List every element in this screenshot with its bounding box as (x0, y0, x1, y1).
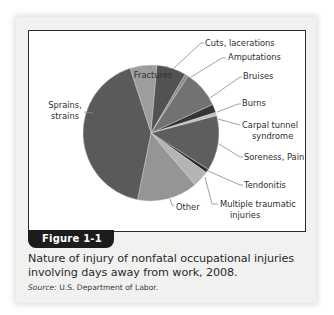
slice-label-bruises: Bruises (243, 71, 273, 81)
slice-label-amputations: Amputations (228, 52, 281, 62)
slice-label-fractures: Fractures (134, 70, 172, 80)
figure-caption: Nature of injury of nonfatal occupationa… (28, 252, 308, 280)
leader-line-bruises (210, 77, 242, 98)
leader-line-amputations (191, 58, 226, 77)
figure-number-tab: Figure 1-1 (28, 230, 114, 248)
slice-label-burns: Burns (242, 98, 266, 108)
slice-label-carpal-tunnel-syndrome: Carpal tunnelsyndrome (242, 120, 298, 141)
leader-line-other (170, 199, 174, 206)
leader-line-multiple-traumatic-injuries (205, 177, 218, 204)
leader-line-burns (217, 104, 241, 112)
leader-line-cuts-lacerations (173, 43, 204, 69)
leader-line-tendonitis (206, 170, 243, 185)
pie-slices (83, 65, 219, 201)
slice-label-tendonitis: Tendonitis (243, 180, 286, 190)
leader-line-soreness-pain (219, 144, 243, 157)
source-text: U.S. Department of Labor. (57, 283, 158, 292)
leader-line-carpal-tunnel-syndrome (218, 119, 240, 125)
slice-label-other: Other (176, 202, 200, 212)
slice-label-cuts-lacerations: Cuts, lacerations (205, 38, 275, 48)
slice-label-soreness-pain: Soreness, Pain (244, 152, 304, 162)
figure-source: Source: U.S. Department of Labor. (28, 283, 158, 292)
source-label: Source: (28, 283, 57, 292)
slice-label-sprains-strains: Sprains,strains (48, 100, 82, 121)
slice-label-multiple-traumatic-injuries: Multiple traumaticinjuries (220, 199, 296, 220)
